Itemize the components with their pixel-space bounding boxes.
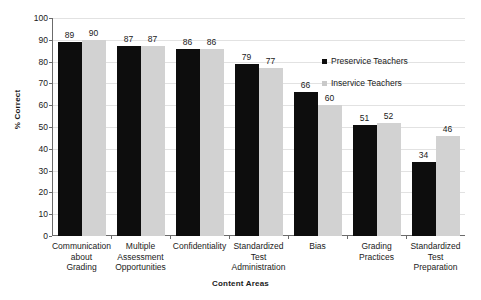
bar-inservice[interactable]: [436, 136, 460, 236]
legend-swatch-icon: [322, 59, 327, 64]
y-axis-tick-label: 70: [39, 78, 48, 88]
x-axis-category-label-line: Administration: [221, 262, 296, 273]
x-axis-category-label: StandardizedTestPreparation: [398, 241, 473, 273]
y-axis-tick-label: 90: [39, 35, 48, 45]
bar-inservice[interactable]: [377, 123, 401, 236]
bar-group: 8686: [170, 18, 229, 236]
x-axis-tick-mark: [347, 236, 348, 239]
bar-value-label: 90: [76, 28, 112, 38]
y-axis-tick-label: 0: [43, 231, 48, 241]
y-axis-tick-label: 40: [39, 144, 48, 154]
y-axis-tick-label: 60: [39, 100, 48, 110]
bar-value-label: 77: [253, 56, 289, 66]
y-axis-tick-label: 10: [39, 209, 48, 219]
bar-inservice[interactable]: [318, 105, 342, 236]
plot-area: 1009080706050403020100 89908787868679776…: [52, 18, 465, 236]
bar-value-label: 87: [135, 34, 171, 44]
bar-preservice[interactable]: [117, 46, 141, 236]
bar-value-label: 86: [194, 37, 230, 47]
bar-group: 5152: [347, 18, 406, 236]
y-axis-tick-label: 30: [39, 166, 48, 176]
bar-inservice[interactable]: [200, 49, 224, 236]
x-axis-tick-mark: [406, 236, 407, 239]
y-axis-tick-label: 20: [39, 187, 48, 197]
bar-group: 6660: [288, 18, 347, 236]
bar-chart-figure: % Correct Content Areas 1009080706050403…: [0, 0, 481, 300]
x-axis-category-label-line: Standardized: [398, 241, 473, 252]
bar-preservice[interactable]: [294, 92, 318, 236]
bar-group: 7977: [229, 18, 288, 236]
y-axis-tick-label: 50: [39, 122, 48, 132]
y-axis-title: % Correct: [13, 75, 22, 145]
bar-value-label: 52: [371, 111, 407, 121]
bar-group: 8990: [52, 18, 111, 236]
bar-value-label: 66: [288, 80, 324, 90]
x-axis-category-label-line: Opportunities: [103, 262, 178, 273]
x-axis-tick-mark: [170, 236, 171, 239]
bar-inservice[interactable]: [82, 40, 106, 236]
x-axis-category-label-line: Test: [221, 252, 296, 263]
bar-preservice[interactable]: [176, 49, 200, 236]
x-axis-tick-mark: [229, 236, 230, 239]
bar-value-label: 46: [430, 124, 466, 134]
y-axis-tick-mark: [49, 236, 52, 237]
x-axis-title: Content Areas: [0, 279, 481, 288]
x-axis-category-label-line: Assessment: [103, 252, 178, 263]
x-axis-tick-mark: [288, 236, 289, 239]
y-axis-tick-label: 80: [39, 57, 48, 67]
bar-preservice[interactable]: [58, 42, 82, 236]
chart-legend: Preservice TeachersInservice Teachers: [322, 56, 408, 100]
bar-group: 3446: [406, 18, 465, 236]
x-axis-category-label-line: Preparation: [398, 262, 473, 273]
legend-item[interactable]: Inservice Teachers: [322, 78, 408, 88]
bar-preservice[interactable]: [412, 162, 436, 236]
y-axis-tick-label: 100: [34, 13, 48, 23]
bar-inservice[interactable]: [141, 46, 165, 236]
bar-preservice[interactable]: [353, 125, 377, 236]
legend-swatch-icon: [322, 81, 327, 86]
x-axis-category-label-line: Test: [398, 252, 473, 263]
bar-group: 8787: [111, 18, 170, 236]
legend-label: Preservice Teachers: [331, 56, 408, 66]
bar-preservice[interactable]: [235, 64, 259, 236]
bar-inservice[interactable]: [259, 68, 283, 236]
x-axis-tick-mark: [111, 236, 112, 239]
legend-item[interactable]: Preservice Teachers: [322, 56, 408, 66]
legend-label: Inservice Teachers: [331, 78, 402, 88]
